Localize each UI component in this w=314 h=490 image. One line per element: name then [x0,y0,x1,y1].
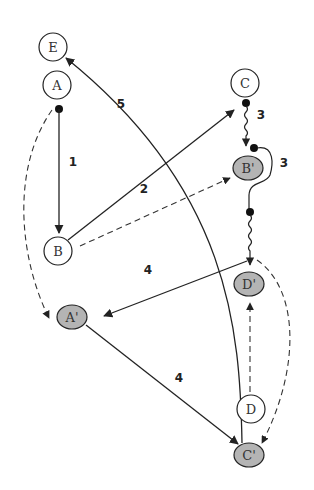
node-e[interactable]: E [39,33,67,61]
node-a-prime[interactable]: A' [57,305,87,329]
edge-c-to-b-prime-wavy [242,99,250,146]
node-d-prime[interactable]: D' [234,272,264,296]
svg-text:C: C [240,76,250,91]
node-a[interactable]: A [43,71,71,99]
graph-diagram: E A C B' B A' D' D C' 5 1 2 3 3 4 4 [0,0,314,490]
svg-text:B': B' [241,161,254,176]
node-b-prime[interactable]: B' [233,156,263,180]
node-b[interactable]: B [44,237,72,265]
svg-text:D': D' [242,277,256,292]
start-dot-icon [250,144,258,152]
svg-text:B: B [53,244,63,259]
svg-text:C': C' [242,448,256,463]
edge-label-2: 2 [140,182,148,196]
svg-text:D: D [246,402,256,417]
svg-text:A: A [51,78,62,93]
start-dot-icon [246,208,254,216]
edge-label-3a: 3 [257,108,265,122]
node-d[interactable]: D [237,395,265,423]
svg-text:A': A' [65,310,79,325]
node-c-prime[interactable]: C' [234,443,264,467]
edge-a-to-b [55,105,63,233]
edge-b-to-c [68,110,234,240]
edge-label-4b: 4 [175,371,183,385]
edge-b-to-b-prime-dashed [80,178,230,246]
node-c[interactable]: C [231,69,259,97]
edge-a-prime-to-c-prime [86,325,238,444]
edge-label-5: 5 [117,97,125,111]
edge-label-1: 1 [69,155,77,169]
edge-label-3b: 3 [280,156,288,170]
edge-c-prime-to-e [66,58,242,443]
edge-label-4a: 4 [144,263,152,277]
svg-text:E: E [48,40,58,55]
edge-a-to-a-prime-dashed [24,110,52,318]
edge-d-prime-to-a-prime [104,261,247,316]
start-dot-icon [242,99,250,107]
